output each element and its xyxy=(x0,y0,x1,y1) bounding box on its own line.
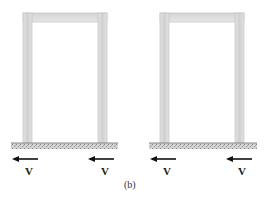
frame-right xyxy=(149,13,257,162)
shear-label: V xyxy=(238,165,246,177)
shear-arrow-icon xyxy=(226,156,252,162)
frame-right-ground xyxy=(149,143,257,149)
frame-left-ground xyxy=(11,143,118,149)
portal-frames-diagram xyxy=(0,0,269,204)
frame-right-column-left xyxy=(160,13,169,143)
frame-left-beam xyxy=(23,13,107,22)
shear-arrow-icon xyxy=(150,156,176,162)
frame-right-column-right xyxy=(235,13,244,143)
frame-left xyxy=(11,13,118,162)
shear-label: V xyxy=(163,165,171,177)
shear-arrow-icon xyxy=(88,156,114,162)
frame-left-column-right xyxy=(98,13,107,143)
shear-arrow-icon xyxy=(12,156,38,162)
shear-label: V xyxy=(101,165,109,177)
frame-left-column-left xyxy=(23,13,32,143)
frame-right-beam xyxy=(160,13,244,22)
figure-caption: (b) xyxy=(124,179,136,190)
shear-label: V xyxy=(25,165,33,177)
